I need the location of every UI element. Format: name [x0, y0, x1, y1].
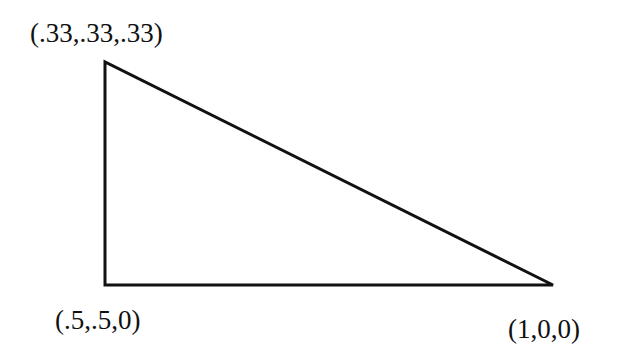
vertex-label-top-left: (.33,.33,.33)	[30, 20, 163, 47]
vertex-label-bottom-left: (.5,.5,0)	[55, 307, 140, 334]
triangle	[105, 62, 553, 285]
vertex-label-bottom-right: (1,0,0)	[508, 316, 580, 343]
